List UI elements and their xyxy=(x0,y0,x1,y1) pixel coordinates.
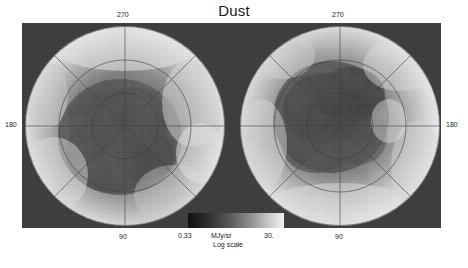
colorbar-min-label: 0.33 xyxy=(178,232,192,240)
axis-label-left-top: 270 xyxy=(117,11,129,19)
page-title: Dust xyxy=(0,2,468,20)
axis-label-left-side: 180 xyxy=(5,121,17,129)
axis-label-right-bottom: 90 xyxy=(335,233,343,241)
colorbar-scale-label: Log scale xyxy=(0,241,468,249)
dust-map-figure: Dust xyxy=(0,0,468,268)
hemisphere-left-image xyxy=(24,25,226,227)
colorbar-max-label: 30. xyxy=(264,232,274,240)
colorbar xyxy=(188,213,284,228)
colorbar-scale-text: Log scale xyxy=(213,241,243,249)
axis-label-left-bottom: 90 xyxy=(119,233,127,241)
axis-label-right-side: 180 xyxy=(446,121,458,129)
colorbar-unit-label: MJy/sr xyxy=(211,232,232,240)
hemisphere-right xyxy=(239,25,441,227)
axis-label-right-top: 270 xyxy=(332,11,344,19)
hemisphere-left xyxy=(24,25,226,227)
colorbar-gradient xyxy=(188,213,284,228)
map-panel xyxy=(22,23,441,228)
hemisphere-right-image xyxy=(239,25,441,227)
